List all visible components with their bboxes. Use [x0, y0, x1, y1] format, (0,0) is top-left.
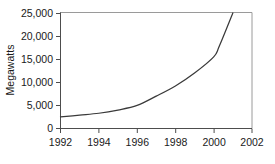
x-tick-label-2000: 2000 — [202, 136, 226, 148]
y-tick-label-25000: 25,000 — [21, 7, 53, 19]
y-axis-title: Megawatts — [4, 45, 16, 96]
y-tick-label-10000: 10,000 — [21, 76, 53, 88]
x-tick-label-2002: 2002 — [240, 136, 264, 148]
x-tick-label-1998: 1998 — [164, 136, 188, 148]
y-tick-label-5000: 5,000 — [27, 99, 53, 111]
x-tick-label-1996: 1996 — [126, 136, 150, 148]
y-tick-label-0: 0 — [47, 122, 53, 134]
chart-canvas: 0 5,000 10,000 15,000 20,000 25,000 1992… — [0, 0, 275, 164]
line-chart: 0 5,000 10,000 15,000 20,000 25,000 1992… — [0, 0, 275, 164]
x-tick-label-1992: 1992 — [49, 136, 73, 148]
y-tick-label-20000: 20,000 — [21, 30, 53, 42]
x-tick-label-1994: 1994 — [87, 136, 111, 148]
y-tick-label-15000: 15,000 — [21, 53, 53, 65]
